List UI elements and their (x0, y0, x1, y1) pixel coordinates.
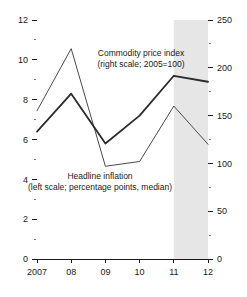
commodity-annotation-line2: (right scale; 2005=100) (97, 59, 184, 69)
x-tick-label: 12 (203, 267, 213, 277)
x-tick-label: 09 (100, 267, 110, 277)
x-tick-label: 08 (66, 267, 76, 277)
right-tick-label: 250 (217, 15, 232, 25)
headline-inflation-annotation: Headline inflation (left scale; percenta… (28, 171, 172, 192)
x-tick-label: 2007 (27, 267, 47, 277)
line-chart: 024681012 050100150200250 20070809101112… (0, 0, 247, 297)
left-tick-label: 2 (23, 214, 28, 224)
commodity-price-index-annotation: Commodity price index (right scale; 2005… (97, 48, 185, 69)
x-axis-ticks: 20070809101112 (27, 259, 213, 277)
headline-annotation-line1: Headline inflation (67, 171, 132, 181)
x-tick-label: 11 (169, 267, 178, 277)
chart-container: 024681012 050100150200250 20070809101112… (0, 0, 247, 297)
x-tick-label: 10 (135, 267, 145, 277)
left-tick-label: 0 (23, 254, 28, 264)
right-tick-label: 0 (217, 254, 222, 264)
left-tick-label: 8 (23, 95, 28, 105)
right-tick-label: 100 (217, 159, 232, 169)
headline-annotation-line2: (left scale; percentage points, median) (28, 182, 172, 192)
left-axis-ticks: 024681012 (18, 15, 37, 264)
left-tick-label: 10 (18, 55, 28, 65)
left-tick-label: 6 (23, 135, 28, 145)
right-tick-label: 50 (217, 206, 227, 216)
right-tick-label: 200 (217, 63, 232, 73)
left-tick-label: 12 (18, 15, 28, 25)
right-axis-ticks: 050100150200250 (208, 15, 232, 264)
commodity-annotation-line1: Commodity price index (98, 48, 185, 58)
right-tick-label: 150 (217, 111, 232, 121)
